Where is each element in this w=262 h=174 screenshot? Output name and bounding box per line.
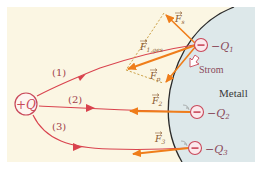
right-angle-dot xyxy=(186,107,187,108)
metal-label: Metall xyxy=(219,87,248,99)
surface-charge-q3: −Q3 xyxy=(189,142,229,158)
field-lines-diagram: +Q −Q1 Strom −Q2 −Q3 (1) (2) (3) Fs F1,g… xyxy=(0,0,262,174)
current-label: Strom xyxy=(199,64,224,75)
minus-sign-icon xyxy=(192,147,199,149)
right-angle-dot xyxy=(184,143,185,144)
source-charge: +Q xyxy=(15,93,37,115)
surface-charge-q1: −Q1 xyxy=(195,39,234,55)
surface-charge-q2: −Q2 xyxy=(191,106,231,122)
field-line-1-label: (1) xyxy=(52,67,66,78)
source-charge-label: +Q xyxy=(16,98,36,112)
field-line-3-label: (3) xyxy=(52,121,66,132)
force-arrow-f2 xyxy=(130,111,191,112)
field-line-2-label: (2) xyxy=(68,94,82,105)
minus-sign-icon xyxy=(194,111,201,113)
diagram-stage: +Q −Q1 Strom −Q2 −Q3 (1) (2) (3) Fs F1,g… xyxy=(0,0,262,174)
minus-sign-icon xyxy=(198,44,205,46)
